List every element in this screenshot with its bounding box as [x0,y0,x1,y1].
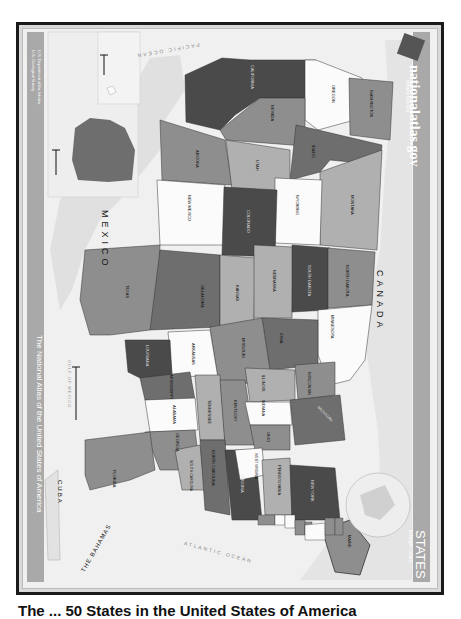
state-texas[interactable] [80,245,160,335]
label-illinois: ILLINOIS [261,375,266,391]
state-michigan[interactable] [290,395,345,445]
label-indiana: INDIANA [261,400,266,416]
state-iowa[interactable] [262,318,318,370]
label-tennessee: TENNESSEE [207,400,212,424]
label-west-virginia: WEST VIRGINIA [254,453,258,479]
label-colorado: COLORADO [246,210,251,233]
label-nevada: NEVADA [270,105,275,121]
label-nebraska: NEBRASKA [272,270,277,292]
label-south-dakota: SOUTH DAKOTA [307,265,312,296]
label-oklahoma: OKLAHOMA [200,285,205,308]
label-washington: WASHINGTON [369,90,374,117]
state-north-dakota[interactable] [328,248,375,308]
state-massachusetts[interactable] [305,523,325,540]
state-wisconsin[interactable] [295,362,335,400]
label-wisconsin: WISCONSIN [307,372,312,395]
map-title: STATES [413,530,428,579]
label-virginia: VIRGINIA [240,475,245,493]
label-ohio: OHIO [266,432,271,442]
label-iowa: IOWA [279,333,284,344]
label-texas: TEXAS [125,285,130,298]
label-utah: UTAH [255,160,260,171]
label-missouri: MISSOURI [241,338,246,358]
state-new-hampshire[interactable] [335,518,343,535]
state-illinois[interactable] [245,368,295,402]
label-idaho: IDAHO [311,145,316,158]
agency-line-1: U.S. Department of the Interior [37,50,42,104]
label-canada: CANADA [375,270,385,332]
state-maryland[interactable] [258,515,275,525]
label-new-york: NEW YORK [310,480,315,502]
label-kentucky: KENTUCKY [233,400,238,422]
label-florida: FLORIDA [112,470,117,487]
state-delaware[interactable] [275,515,285,525]
label-new-mexico: NEW MEXICO [187,195,192,221]
label-kansas: KANSAS [235,285,240,301]
state-indiana[interactable] [245,402,292,425]
label-maine: MAINE [347,535,352,548]
side-banner: The National Atlas of the United States … [35,335,44,512]
label-pennsylvania: PENNSYLVANIA [277,465,282,495]
label-alabama: ALABAMA [172,405,177,424]
label-gulf-of-mexico: GULF OF MEXICO [67,360,72,408]
label-mexico: MEXICO [100,210,110,270]
brand-tagline: Where We Are [405,80,411,112]
label-oregon: OREGON [331,85,336,103]
scale-bar-main [72,367,80,420]
label-mississippi: MISSISSIPPI [169,375,174,399]
label-north-dakota: NORTH DAKOTA [345,265,350,296]
label-wyoming: WYOMING [295,195,300,215]
state-connecticut[interactable] [295,520,305,535]
state-new-york[interactable] [290,465,340,520]
map-subtitle: in bright colors [408,530,414,563]
label-california: CALIFORNIA [250,65,255,89]
label-arkansas: ARKANSAS [191,343,196,365]
label-south-carolina: SOUTH CAROLINA [189,460,193,491]
state-oklahoma[interactable] [150,250,220,330]
label-cuba: CUBA [57,480,63,505]
label-georgia: GEORGIA [175,433,180,452]
label-montana: MONTANA [350,195,355,215]
label-arizona: ARIZONA [195,150,200,168]
label-minnesota: MINNESOTA [330,315,335,338]
state-vermont[interactable] [325,518,335,535]
figure-caption: The ... 50 States in the United States o… [18,602,357,619]
state-florida[interactable] [85,432,155,490]
label-north-carolina: NORTH CAROLINA [211,450,216,486]
agency-line-2: U.S. Geological Survey [31,50,36,91]
state-new-jersey[interactable] [285,515,295,528]
label-louisiana: LOUISIANA [145,345,150,366]
